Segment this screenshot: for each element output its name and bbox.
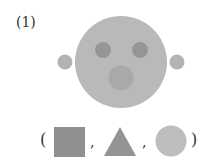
left-ear-icon [58,55,73,70]
right-eye-icon [132,42,148,58]
figure [0,0,207,163]
face-circle-icon [75,16,167,108]
close-paren: ) [191,130,197,149]
comma-separator: , [90,134,94,150]
open-paren: ( [40,130,46,149]
mouth-icon [109,66,134,91]
square-icon [54,127,85,157]
right-ear-icon [170,55,185,70]
option-circle-icon [156,126,187,157]
left-eye-icon [95,42,111,58]
comma-separator: , [142,134,146,150]
triangle-icon [104,127,136,156]
